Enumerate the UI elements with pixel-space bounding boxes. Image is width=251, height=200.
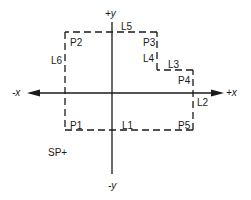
- point-p3-label: P3: [143, 38, 155, 48]
- point-p5-label: P5: [178, 121, 190, 131]
- neg-x-label: -x: [12, 88, 20, 98]
- pos-x-label: +x: [226, 88, 237, 98]
- sp-plus-annotation: SP+: [48, 148, 67, 158]
- pos-y-label: +y: [105, 9, 116, 19]
- point-p4-label: P4: [178, 76, 190, 86]
- line-l5-label: L5: [121, 22, 132, 32]
- neg-x-arrow-icon: [27, 90, 40, 97]
- dashed-path: [65, 32, 193, 130]
- pos-x-arrow-icon: [211, 90, 224, 97]
- line-l4-label: L4: [143, 54, 154, 64]
- point-p2-label: P2: [70, 38, 82, 48]
- line-l2-label: L2: [197, 98, 208, 108]
- line-l6-label: L6: [51, 56, 62, 66]
- neg-y-label: -y: [108, 181, 116, 191]
- x-axis: [27, 90, 224, 97]
- line-l1-label: L1: [122, 121, 133, 131]
- line-l3-label: L3: [168, 60, 179, 70]
- point-p1-label: P1: [70, 121, 82, 131]
- diagram-canvas: -x +x +y -y P1 P2 P3 P4 P5 L1 L2 L3 L4 L…: [0, 0, 251, 200]
